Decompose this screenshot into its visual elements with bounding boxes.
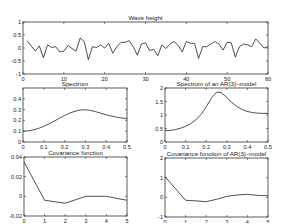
x-tick-label: 0.1 [40,144,48,150]
plot-title: Covariance function of AR(3)–model [167,150,266,157]
x-tick-label: 1 [43,218,46,224]
y-tick-label: 0.5 [13,32,21,38]
y-tick-label: 1 [18,19,21,25]
y-tick-label: -0.5 [11,58,21,64]
x-tick-label: 1 [184,219,187,224]
y-tick-label: 1 [160,112,163,118]
y-tick-label: 0 [160,139,163,145]
axes-box [165,88,268,142]
y-tick-label: 2 [160,155,163,161]
axes-box [23,22,268,74]
y-tick-label: -1 [16,71,21,77]
y-tick-label: 0.02 [11,174,22,180]
x-tick-label: 0 [21,76,24,82]
x-tick-label: 3 [84,218,87,224]
plot-covariance: Covariance function012345-0.0200.020.04 [9,149,128,224]
y-tick-label: 0.04 [11,154,22,160]
y-tick-label: -0.02 [9,213,22,219]
y-tick-label: 1.5 [155,99,163,105]
axes-box [23,88,127,142]
x-tick-label: 0.5 [123,144,131,150]
x-tick-label: 60 [265,76,271,82]
y-tick-label: 0 [160,194,163,200]
x-tick-label: 0.4 [102,144,110,150]
x-tick-label: 5 [125,218,128,224]
axes-box [165,158,268,217]
y-tick-label: 0.3 [13,107,21,113]
y-tick-label: 0 [18,139,21,145]
figure: Wave height0102030405060-1-0.500.51 Spec… [0,0,282,223]
y-tick-label: -1 [158,214,163,220]
x-tick-label: 0 [163,219,166,224]
plot-title: Wave height [128,14,162,21]
y-tick-label: 0 [19,193,22,199]
data-line [27,38,268,60]
data-line [165,177,268,202]
x-tick-label: 5 [266,219,269,224]
x-tick-label: 20 [102,76,108,82]
plot-title: Spectrum of an AR(3)–model [177,80,257,87]
x-tick-label: 4 [246,219,249,224]
axes-box [24,157,127,216]
y-tick-label: 0.2 [13,117,21,123]
y-tick-label: 2 [160,85,163,91]
plot-wave-height: Wave height0102030405060-1-0.500.51 [11,14,271,82]
x-tick-label: 30 [142,76,148,82]
data-line [23,110,127,131]
plot-title: Spectrum [62,80,88,87]
data-line [165,92,268,131]
plot-ar3-covariance: Covariance function of AR(3)–model012345… [158,150,270,224]
plot-spectrum: Spectrum00.10.20.30.40.500.10.20.30.4 [13,80,131,150]
y-tick-label: 0.1 [13,128,21,134]
x-tick-label: 0 [21,144,24,150]
y-tick-label: 0.4 [13,96,21,102]
x-tick-label: 4 [105,218,108,224]
y-tick-label: 0 [18,45,21,51]
x-tick-label: 2 [205,219,208,224]
data-line [24,162,127,203]
y-tick-label: 0.5 [155,126,163,132]
x-tick-label: 2 [64,218,67,224]
x-tick-label: 3 [225,219,228,224]
plot-ar3-spectrum: Spectrum of an AR(3)–model00.10.20.30.40… [155,80,272,150]
plot-title: Covariance function [48,149,103,156]
x-tick-label: 0 [22,218,25,224]
y-tick-label: 1 [160,175,163,181]
